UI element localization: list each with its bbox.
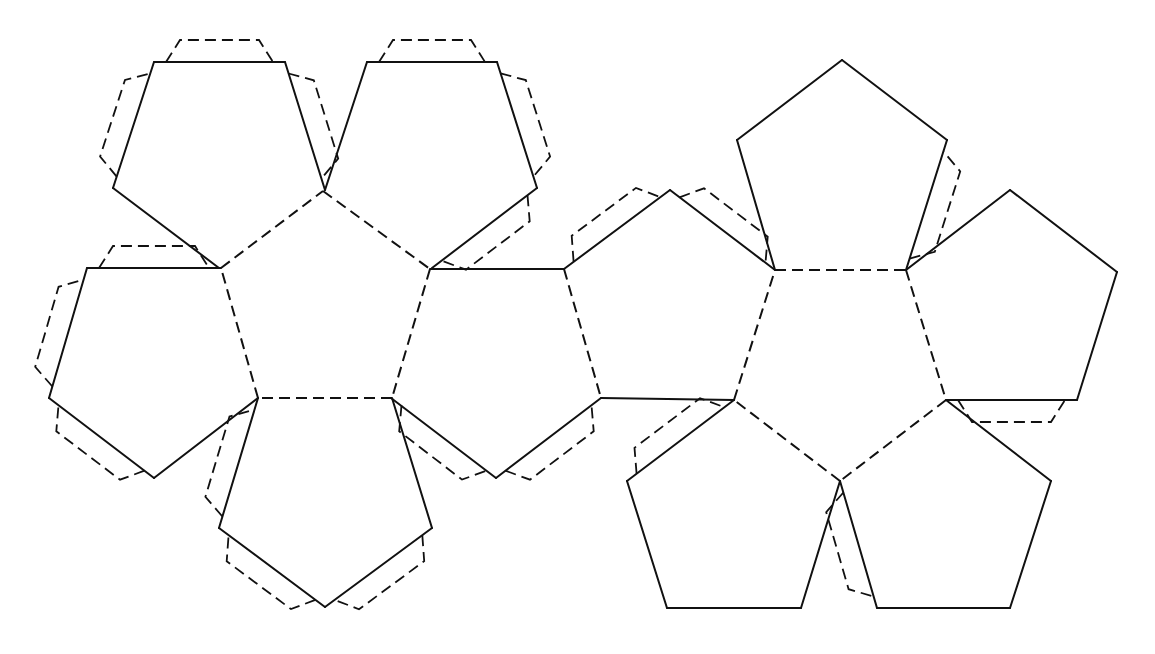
dodecahedron-net-diagram [0, 0, 1155, 654]
face-left-right [391, 269, 601, 478]
glue-tab [166, 40, 273, 62]
pentagon-faces [49, 60, 1117, 608]
glue-tab [958, 400, 1065, 422]
face-right-left [564, 190, 775, 400]
face-right-right [906, 190, 1117, 400]
glue-tab [99, 246, 209, 268]
glue-tab [379, 40, 485, 62]
face-left-left [49, 268, 258, 478]
